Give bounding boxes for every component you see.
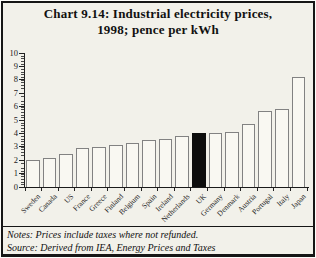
x-axis-labels: SwedenCanadaUSFranceGreeceFinlandBelgium… bbox=[3, 189, 313, 229]
notes-line: Notes: Prices include taxes where not re… bbox=[7, 229, 309, 242]
bar-netherlands bbox=[175, 136, 189, 187]
chart-title: Chart 9.14: Industrial electricity price… bbox=[3, 6, 313, 38]
y-tick-label-3: 3 bbox=[3, 141, 18, 152]
bar-series bbox=[26, 53, 305, 187]
bar-spain bbox=[142, 140, 156, 187]
bar-canada bbox=[43, 158, 57, 187]
y-tick-label-1: 1 bbox=[3, 168, 18, 179]
y-tick-label-7: 7 bbox=[3, 88, 18, 99]
y-major-tick-10 bbox=[19, 53, 25, 54]
chart-title-line1: Chart 9.14: Industrial electricity price… bbox=[3, 6, 313, 22]
chart-title-line2: 1998; pence per kWh bbox=[3, 22, 313, 38]
bar-finland bbox=[109, 145, 123, 187]
bar-austria bbox=[242, 124, 256, 187]
y-major-tick-5 bbox=[19, 120, 25, 121]
bar-germany bbox=[209, 133, 223, 187]
bar-us bbox=[59, 154, 73, 188]
chart-frame: Chart 9.14: Industrial electricity price… bbox=[1, 1, 315, 257]
y-major-tick-2 bbox=[19, 160, 25, 161]
y-major-tick-9 bbox=[19, 66, 25, 67]
plot-area: 012345678910 bbox=[3, 53, 313, 187]
bar-belgium bbox=[126, 143, 140, 187]
bar-ireland bbox=[159, 139, 173, 187]
y-major-tick-8 bbox=[19, 79, 25, 80]
bar-italy bbox=[275, 109, 289, 187]
y-major-tick-3 bbox=[19, 146, 25, 147]
bar-denmark bbox=[225, 132, 239, 187]
notes-divider bbox=[3, 226, 313, 227]
bar-portugal bbox=[258, 111, 272, 187]
y-tick-label-5: 5 bbox=[3, 115, 18, 126]
y-tick-label-9: 9 bbox=[3, 61, 18, 72]
bar-uk bbox=[192, 133, 206, 187]
x-axis bbox=[24, 187, 309, 189]
y-tick-label-10: 10 bbox=[3, 48, 18, 59]
y-tick-label-6: 6 bbox=[3, 101, 18, 112]
y-major-tick-7 bbox=[19, 93, 25, 94]
y-tick-label-2: 2 bbox=[3, 155, 18, 166]
bar-japan bbox=[292, 77, 306, 187]
bar-sweden bbox=[26, 160, 40, 187]
bar-greece bbox=[92, 147, 106, 187]
bar-france bbox=[76, 148, 90, 187]
y-tick-label-4: 4 bbox=[3, 128, 18, 139]
y-major-tick-6 bbox=[19, 106, 25, 107]
notes-block: Notes: Prices include taxes where not re… bbox=[7, 229, 309, 254]
y-tick-label-8: 8 bbox=[3, 74, 18, 85]
y-major-tick-4 bbox=[19, 133, 25, 134]
source-line: Source: Derived from IEA, Energy Prices … bbox=[7, 242, 309, 255]
y-major-tick-1 bbox=[19, 173, 25, 174]
